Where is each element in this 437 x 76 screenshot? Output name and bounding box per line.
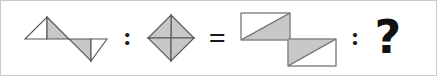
term-d-question-mark: ? (374, 14, 401, 62)
triangle-down-left-gray (69, 39, 91, 61)
diamond-quadrant-top-left (148, 15, 171, 38)
operator-equals: = (209, 23, 226, 53)
figure-diamond-quartered (145, 12, 197, 64)
puzzle-panel: : = (0, 0, 437, 76)
diamond-quadrant-bottom-right (171, 38, 194, 61)
triangle-up-right-gray (47, 17, 69, 39)
operator-colon-1: : (123, 24, 132, 52)
figure-two-triangles-s-shape (23, 13, 109, 63)
figure-two-rectangles-diagonal (239, 9, 338, 67)
triangle-up-left-white (25, 17, 47, 39)
operator-colon-2: : (351, 24, 360, 52)
term-b-diamond-quartered (145, 12, 197, 64)
analogy-row: : = (1, 1, 437, 75)
term-c-two-rectangles-diagonal (239, 9, 338, 67)
triangle-down-right-white (91, 39, 107, 61)
diamond-quadrant-bottom-left (148, 38, 171, 61)
diamond-quadrant-top-right (171, 15, 194, 38)
term-a-two-triangles-s-shape (23, 13, 109, 63)
